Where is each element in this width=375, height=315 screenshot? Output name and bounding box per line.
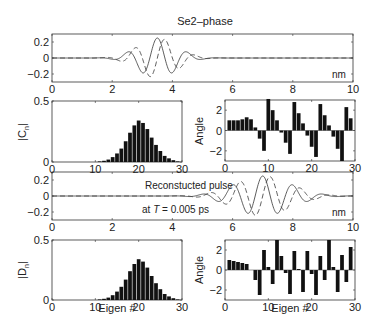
bar: [318, 256, 322, 270]
tick-label: 20: [133, 163, 145, 175]
bar: [137, 259, 141, 300]
bar: [262, 250, 266, 270]
figure: Se2–phase nm |Cn| Angle Reconstucted pul…: [0, 0, 375, 315]
tick-label: 0.2: [34, 36, 49, 48]
dn-ylabel: |Dn|: [16, 261, 30, 279]
real-curve: [52, 38, 353, 73]
bar: [124, 280, 128, 300]
tick-label: 0.5: [34, 95, 49, 107]
tick-label: 2: [216, 104, 222, 116]
bar: [227, 260, 231, 270]
bar: [115, 153, 119, 162]
tick-label: 10: [347, 221, 359, 233]
bar: [275, 240, 279, 270]
bar: [106, 160, 110, 162]
tick-label: 4: [169, 221, 175, 233]
bar: [327, 125, 331, 130]
bar: [305, 251, 309, 270]
bar: [284, 131, 288, 143]
bar: [301, 270, 305, 292]
tick-label: 30: [349, 301, 361, 313]
bar: [314, 131, 318, 157]
tick-label: 8: [290, 221, 296, 233]
tick-label: 0: [43, 294, 49, 306]
tick-label: 6: [230, 83, 236, 95]
bar: [266, 267, 270, 270]
bar: [128, 271, 132, 300]
tick-label: −0.2: [27, 68, 49, 80]
bar: [336, 131, 340, 149]
bar: [336, 270, 340, 292]
dn-angle-ylabel: Angle: [193, 256, 205, 284]
dn-angle-xlabel: Eigen #: [271, 302, 309, 314]
bar: [154, 283, 158, 300]
tick-label: 4: [169, 83, 175, 95]
bar: [275, 120, 279, 130]
bar: [240, 263, 244, 270]
tick-label: 10: [347, 83, 359, 95]
bar: [292, 251, 296, 270]
bar: [141, 123, 145, 162]
bar: [245, 117, 249, 130]
tick-label: 0: [216, 125, 222, 137]
bar: [266, 99, 270, 131]
tick-label: 20: [306, 162, 318, 174]
tick-label: 0.2: [34, 174, 49, 186]
tick-label: 0.5: [34, 234, 49, 246]
bar: [227, 120, 231, 130]
bar: [163, 294, 167, 300]
time-annotation: at T = 0.005 ps: [142, 204, 209, 215]
bar: [327, 240, 331, 270]
bar: [288, 131, 292, 154]
bar: [349, 118, 353, 130]
bar: [167, 296, 171, 300]
tick-label: 6: [230, 221, 236, 233]
bar: [262, 131, 266, 151]
bar: [318, 104, 322, 130]
bar: [98, 161, 102, 162]
bar: [137, 121, 141, 162]
tick-label: 2: [109, 221, 115, 233]
bar: [176, 299, 180, 300]
bar: [171, 160, 175, 162]
tick-label: 10: [89, 301, 101, 313]
bar: [98, 299, 102, 300]
tick-label: 30: [176, 301, 188, 313]
bar: [119, 149, 123, 162]
bar: [292, 102, 296, 130]
bar: [111, 295, 115, 300]
bar: [158, 151, 162, 162]
bar: [102, 161, 106, 162]
bar: [115, 292, 119, 300]
bar: [141, 262, 145, 300]
bar: [158, 289, 162, 300]
bar: [288, 270, 292, 294]
bar: [323, 270, 327, 280]
bar: [167, 158, 171, 162]
cn-ylabel: |Cn|: [16, 123, 30, 141]
tick-label: 8: [290, 83, 296, 95]
bar: [258, 131, 262, 139]
bottom-wave-xunit: nm: [332, 207, 346, 218]
tick-label: 0: [43, 52, 49, 64]
bar: [258, 270, 262, 295]
bar: [150, 276, 154, 300]
bar: [349, 247, 353, 270]
bar: [128, 133, 132, 162]
bar: [310, 270, 314, 274]
tick-label: 30: [349, 162, 361, 174]
bar: [236, 120, 240, 130]
cn-angle-ylabel: Angle: [193, 117, 205, 145]
tick-label: 10: [89, 163, 101, 175]
tick-label: 0: [222, 162, 228, 174]
bar: [344, 107, 348, 130]
bar: [323, 115, 327, 130]
tick-label: −0.2: [27, 206, 49, 218]
bar: [124, 141, 128, 162]
tick-label: 30: [176, 163, 188, 175]
bar: [176, 161, 180, 162]
bar: [163, 156, 167, 162]
tick-label: −2: [209, 145, 222, 157]
bar: [232, 120, 236, 130]
bar: [154, 145, 158, 162]
